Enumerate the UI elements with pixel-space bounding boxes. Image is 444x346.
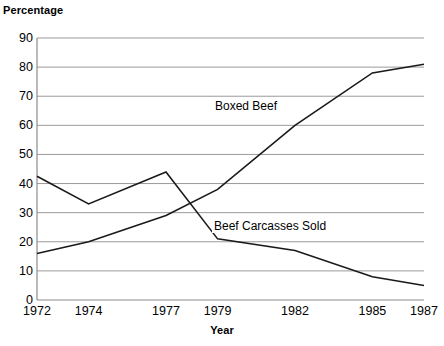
x-axis-tick-label: 1982	[281, 304, 309, 318]
plot-area	[0, 0, 444, 346]
x-axis-tick-label: 1977	[152, 304, 180, 318]
series-label-beef-carcasses: Beef Carcasses Sold	[212, 219, 328, 233]
x-axis-tick-label: 1974	[75, 304, 103, 318]
x-axis-tick-label: 1985	[358, 304, 386, 318]
x-axis-tick-label: 1979	[204, 304, 232, 318]
x-axis-tick-label: 1972	[23, 304, 51, 318]
series-label-boxed-beef: Boxed Beef	[213, 99, 279, 113]
x-axis-title: Year	[0, 324, 444, 336]
line-chart: Percentage 0102030405060708090 197219741…	[0, 0, 444, 346]
data-series-layer	[37, 64, 424, 285]
x-axis-tick-label: 1987	[410, 304, 438, 318]
gridlines	[37, 38, 424, 271]
